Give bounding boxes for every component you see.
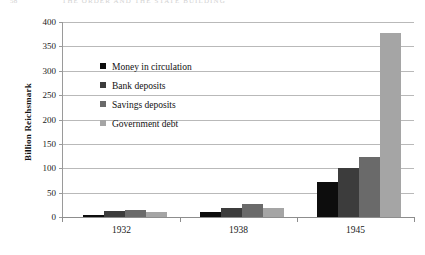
y-axis-tick-label: 250: [43, 90, 57, 100]
y-axis-tick-label: 350: [43, 41, 57, 51]
bar: [83, 215, 104, 217]
y-axis-tick-label: 150: [43, 139, 57, 149]
legend-swatch-icon: [100, 101, 106, 107]
bar: [200, 212, 221, 217]
bar: [359, 157, 380, 217]
legend-item: Savings deposits: [100, 94, 250, 113]
bar: [317, 182, 338, 217]
legend-label: Savings deposits: [112, 100, 176, 110]
legend-item: Government debt: [100, 113, 250, 132]
x-axis-tick-label: 1932: [63, 225, 180, 235]
legend-swatch-icon: [100, 120, 106, 126]
bar: [125, 210, 146, 217]
y-axis-tick-label: 50: [47, 188, 56, 198]
y-axis-tick-label: 400: [43, 17, 57, 27]
axis-left-cap: [62, 217, 63, 222]
bar: [104, 211, 125, 217]
bar-chart-figure: Billion Reichsmark 050100150200250300350…: [0, 0, 425, 255]
x-axis-tick-label: 1945: [297, 225, 414, 235]
x-axis-tick-label: 1938: [180, 225, 297, 235]
bar: [242, 204, 263, 217]
bar: [146, 212, 167, 217]
gridline: [63, 217, 414, 218]
bar: [338, 168, 359, 217]
y-axis-title: Billion Reichsmark: [23, 42, 33, 202]
legend-item: Bank deposits: [100, 75, 250, 94]
legend-item: Money in circulation: [100, 56, 250, 75]
y-axis-tick-label: 100: [43, 163, 57, 173]
y-axis-tick-label: 0: [52, 212, 57, 222]
legend-swatch-icon: [100, 82, 106, 88]
legend-label: Government debt: [112, 119, 178, 129]
axis-right-cap: [414, 217, 415, 222]
y-axis-tick-label: 300: [43, 66, 57, 76]
bar: [263, 208, 284, 217]
bar: [221, 208, 242, 217]
legend-swatch-icon: [100, 63, 106, 69]
chart-legend: Money in circulationBank depositsSavings…: [100, 56, 250, 132]
x-axis-group-tick: [180, 217, 181, 222]
y-axis-tick-label: 200: [43, 115, 57, 125]
legend-label: Money in circulation: [112, 62, 192, 72]
bar: [380, 33, 401, 217]
bar-group: [297, 22, 414, 217]
x-axis-group-tick: [297, 217, 298, 222]
legend-label: Bank deposits: [112, 81, 166, 91]
